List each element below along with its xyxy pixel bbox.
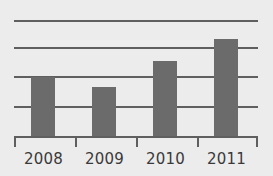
x-tick-label-2008: 2008 bbox=[13, 150, 74, 168]
bar-2009 bbox=[92, 87, 116, 137]
axis-tick-end bbox=[256, 136, 258, 147]
plot-area: 2008 2009 2010 2011 bbox=[0, 0, 273, 176]
x-tick-label-2011: 2011 bbox=[196, 150, 257, 168]
axis-tick-1 bbox=[75, 136, 77, 147]
bar-2010 bbox=[153, 61, 177, 137]
bar-chart: 2008 2009 2010 2011 bbox=[0, 0, 273, 176]
axis-tick-2 bbox=[136, 136, 138, 147]
bar-2011 bbox=[214, 39, 238, 137]
axis-tick-start bbox=[14, 136, 16, 147]
bar-2008 bbox=[31, 77, 55, 137]
axis-tick-3 bbox=[197, 136, 199, 147]
gridline-4 bbox=[14, 20, 258, 22]
x-tick-label-2009: 2009 bbox=[74, 150, 135, 168]
x-tick-label-2010: 2010 bbox=[135, 150, 196, 168]
